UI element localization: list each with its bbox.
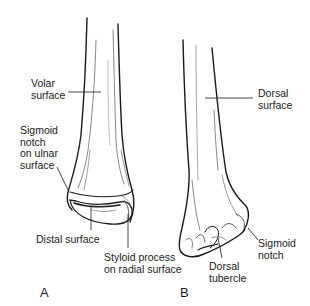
label-volar-surface: Volar surface <box>31 78 65 101</box>
label-distal-surface: Distal surface <box>36 234 100 246</box>
panel-letter-b: B <box>180 286 189 300</box>
label-dorsal-tubercle: Dorsal tubercle <box>209 261 246 284</box>
leader-lines-b <box>205 98 258 258</box>
label-styloid-process: Styloid process on radial surface <box>104 252 182 275</box>
bone-b-dorsal-view <box>179 40 248 257</box>
leader-sigmoid-notch-ulnar <box>57 167 68 190</box>
radius-anatomy-figure: Volar surface Sigmoid notch on ulnar sur… <box>0 0 310 306</box>
bone-a-volar-view <box>67 18 134 224</box>
label-dorsal-surface: Dorsal surface <box>258 88 292 111</box>
label-sigmoid-notch-ulnar: Sigmoid notch on ulnar surface <box>20 125 58 171</box>
leader-sigmoid-notch <box>248 228 258 240</box>
label-sigmoid-notch: Sigmoid notch <box>258 238 296 261</box>
panel-letter-a: A <box>40 286 49 300</box>
